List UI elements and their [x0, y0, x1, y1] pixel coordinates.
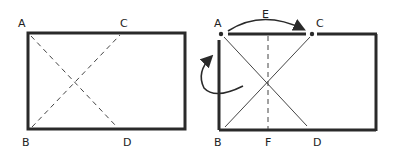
- left-figure: A C B D: [18, 17, 185, 149]
- label-c-left: C: [120, 17, 128, 30]
- label-b-right: B: [214, 136, 222, 149]
- point-c-dot: [310, 32, 314, 36]
- diagram-canvas: A C B D A E C B F D: [0, 0, 396, 158]
- label-e-right: E: [262, 8, 269, 21]
- fold-arrow-top-icon: [228, 19, 303, 31]
- fold-arrow-left-icon: [201, 57, 243, 94]
- label-a-left: A: [18, 17, 26, 30]
- label-d-right: D: [313, 136, 321, 149]
- label-f-right: F: [265, 136, 271, 149]
- left-dashed-diagonal-b-c: [32, 35, 120, 127]
- right-figure: A E C B F D: [201, 8, 377, 149]
- left-rectangle: [28, 33, 185, 129]
- left-dashed-diagonal-a-d: [31, 36, 116, 126]
- label-a-right: A: [214, 17, 222, 30]
- point-a-dot: [219, 32, 223, 36]
- label-b-left: B: [22, 136, 30, 149]
- label-d-left: D: [123, 136, 131, 149]
- label-c-right: C: [316, 17, 324, 30]
- right-diagonal-a-d: [224, 37, 307, 126]
